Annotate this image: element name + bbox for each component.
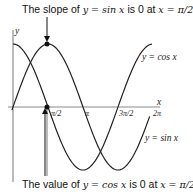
tick-pi: π	[85, 109, 89, 118]
zero-point	[45, 105, 50, 110]
tick-3pi-over-2: 3π/2	[119, 109, 133, 118]
tick-pi-over-2: π/2	[51, 109, 61, 118]
top-arrow-head	[44, 36, 50, 42]
sin-label: y = sin x	[145, 133, 178, 143]
sine-cosine-plot	[0, 0, 193, 194]
peak-point	[45, 42, 50, 47]
cos-label: y = cos x	[142, 52, 177, 62]
tick-2pi: 2π	[153, 109, 161, 118]
x-axis-label: x	[157, 97, 161, 107]
y-axis-label: y	[15, 26, 19, 36]
top-caption: The slope of y = sin x is 0 at x = π/2	[22, 3, 193, 15]
bottom-caption: The value of y = cos x is 0 at x = π/2	[22, 178, 193, 190]
